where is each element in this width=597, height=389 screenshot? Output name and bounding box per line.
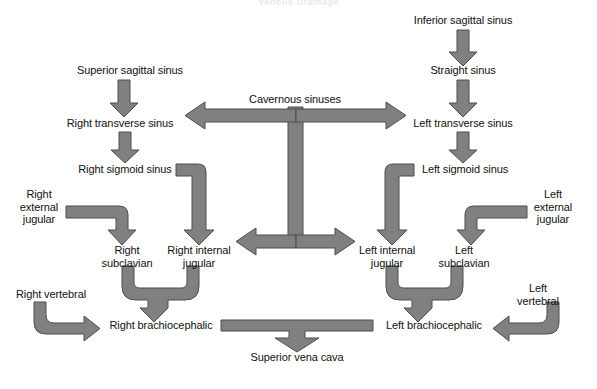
connector-lej-to-lsc [457, 206, 527, 245]
node-left-internal-jugular: Left internal jugular [359, 244, 415, 269]
node-right-sigmoid-sinus: Right sigmoid sinus [78, 163, 171, 176]
connector-rsg-to-rij [176, 164, 214, 245]
connector-rsc-rij-to-rbc [122, 266, 199, 322]
connector-cavernous-trunk [288, 107, 303, 241]
node-right-vertebral: Right vertebral [16, 288, 86, 301]
node-right-subclavian: Right subclavian [102, 244, 153, 269]
connector-isg-to-ss [449, 30, 477, 66]
node-left-external-jugular: Left external jugular [534, 188, 572, 226]
node-inferior-sagittal-sinus: Inferior sagittal sinus [414, 14, 513, 27]
connector-rts-to-rsg [111, 132, 139, 163]
node-superior-vena-cava: Superior vena cava [251, 351, 344, 364]
node-right-transverse-sinus: Right transverse sinus [67, 117, 174, 130]
node-left-vertebral: Left vertebral [509, 282, 568, 307]
venous-drainage-diagram: Venous Drainage [0, 0, 597, 389]
flow-connectors [0, 0, 597, 389]
connector-cav-to-rts [185, 102, 296, 129]
node-superior-sagittal-sinus: Superior sagittal sinus [77, 64, 183, 77]
connector-rej-to-rsc [66, 206, 136, 245]
node-cavernous-sinuses: Cavernous sinuses [249, 93, 341, 106]
connector-ssg-to-rts [110, 80, 138, 117]
node-left-brachiocephalic: Left brachiocephalic [386, 319, 482, 332]
connector-ss-to-lts [449, 80, 477, 117]
node-right-brachiocephalic: Right brachiocephalic [109, 319, 212, 332]
node-right-internal-jugular: Right internal jugular [167, 244, 230, 269]
connector-lij-lsc-to-lbc [386, 266, 463, 322]
connector-cav-to-lts [296, 102, 406, 129]
connector-bc-to-svc [221, 320, 373, 352]
connector-lsg-to-lij [377, 164, 414, 245]
connector-lvt-to-lbc [493, 302, 559, 341]
node-left-subclavian: Left subclavian [439, 244, 490, 269]
connector-cav-to-rij [236, 228, 296, 255]
node-left-transverse-sinus: Left transverse sinus [413, 117, 512, 130]
node-straight-sinus: Straight sinus [430, 64, 495, 77]
node-right-external-jugular: Right external jugular [20, 188, 58, 226]
connector-rvt-to-rbc [34, 302, 100, 341]
node-left-sigmoid-sinus: Left sigmoid sinus [422, 163, 508, 176]
connector-cav-to-lij [296, 228, 355, 255]
connector-lts-to-lsg [449, 132, 477, 163]
